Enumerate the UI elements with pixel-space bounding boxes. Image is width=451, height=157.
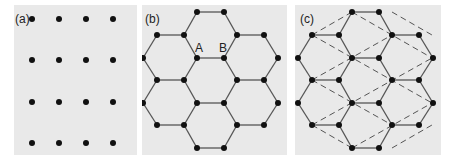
- atom-dot: [261, 77, 267, 83]
- atom-dot: [309, 32, 315, 38]
- atom-dot: [234, 77, 240, 83]
- site-label-b: B: [219, 41, 227, 55]
- atom-dot: [336, 77, 342, 83]
- lattice-figure: (a) (b)AB (c): [0, 0, 451, 157]
- atom-dot: [154, 32, 160, 38]
- atom-dot: [56, 16, 62, 22]
- atom-dot: [261, 32, 267, 38]
- atom-dot: [110, 140, 116, 146]
- atom-dot: [336, 32, 342, 38]
- panel-label: (a): [15, 12, 30, 26]
- atom-dot: [376, 145, 382, 151]
- atom-dot: [221, 145, 227, 151]
- atom-dot: [275, 100, 281, 106]
- atom-dot: [416, 77, 422, 83]
- atom-dot: [221, 55, 227, 61]
- atom-dot: [349, 55, 355, 61]
- atom-dot: [56, 99, 62, 105]
- atom-dot: [221, 9, 227, 15]
- atom-dot: [430, 55, 436, 61]
- atom-dot: [194, 9, 200, 15]
- atom-dot: [181, 77, 187, 83]
- atom-dot: [416, 122, 422, 128]
- atom-dot: [181, 122, 187, 128]
- panel-label: (c): [300, 12, 314, 26]
- atom-dot: [416, 32, 422, 38]
- atom-dot: [29, 99, 35, 105]
- atom-dot: [376, 55, 382, 61]
- atom-dot: [29, 16, 35, 22]
- atom-dot: [389, 122, 395, 128]
- atom-dot: [336, 122, 342, 128]
- atom-dot: [234, 32, 240, 38]
- atom-dot: [349, 145, 355, 151]
- atom-dot: [83, 140, 89, 146]
- atom-dot: [110, 57, 116, 63]
- atom-dot: [194, 55, 200, 61]
- panel-label: (b): [145, 12, 160, 26]
- atom-dot: [29, 140, 35, 146]
- atom-dot: [83, 57, 89, 63]
- atom-dot: [154, 122, 160, 128]
- atom-dot: [154, 77, 160, 83]
- atom-dot: [56, 140, 62, 146]
- atom-dot: [110, 99, 116, 105]
- atom-dot: [389, 32, 395, 38]
- atom-dot: [110, 16, 116, 22]
- panel-b-honeycomb-lattice: (b)AB: [140, 5, 287, 155]
- atom-dot: [56, 57, 62, 63]
- panel-background: [14, 5, 137, 155]
- atom-dot: [349, 9, 355, 15]
- atom-dot: [234, 122, 240, 128]
- atom-dot: [309, 77, 315, 83]
- panel-c-honeycomb-with-sublattice: (c): [295, 5, 441, 155]
- atom-dot: [309, 122, 315, 128]
- atom-dot: [83, 99, 89, 105]
- atom-dot: [140, 55, 146, 61]
- atom-dot: [376, 9, 382, 15]
- atom-dot: [430, 100, 436, 106]
- atom-dot: [376, 100, 382, 106]
- atom-dot: [194, 145, 200, 151]
- atom-dot: [295, 55, 301, 61]
- atom-dot: [261, 122, 267, 128]
- atom-dot: [29, 57, 35, 63]
- atom-dot: [349, 100, 355, 106]
- atom-dot: [295, 100, 301, 106]
- site-label-a: A: [195, 41, 203, 55]
- atom-dot: [221, 100, 227, 106]
- panel-a-square-lattice: (a): [14, 5, 137, 155]
- atom-dot: [275, 55, 281, 61]
- atom-dot: [181, 32, 187, 38]
- atom-dot: [194, 100, 200, 106]
- atom-dot: [83, 16, 89, 22]
- atom-dot: [389, 77, 395, 83]
- atom-dot: [140, 100, 146, 106]
